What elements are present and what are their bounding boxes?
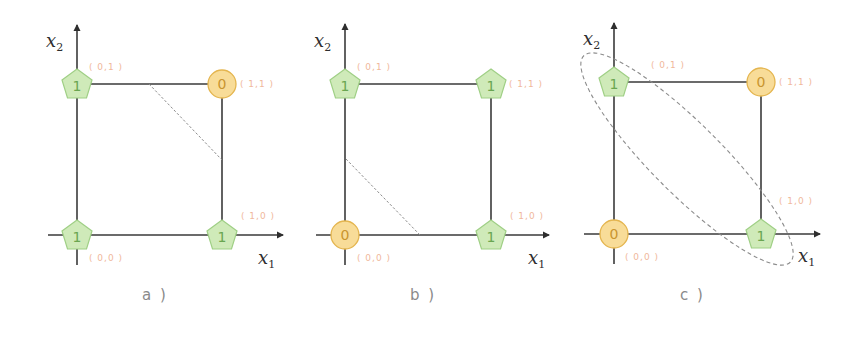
coord-label: ( 0,0 ) [357, 253, 391, 263]
caption-a: a ) [142, 286, 168, 304]
panel-b: 1 ( 0,1 ) 1 ( 1,1 ) 0 ( 0,0 ) 1 ( 1,0 ) … [314, 24, 549, 271]
point-1-1: 0 ( 1,1 ) [208, 70, 274, 98]
point-0-0: 0 ( 0,0 ) [331, 221, 391, 263]
point-0-0: 1 ( 0,0 ) [62, 220, 123, 263]
panel-a: 1 ( 0,1 ) 0 ( 1,1 ) 1 ( 0,0 ) 1 ( 1,0 ) … [46, 25, 283, 271]
point-value: 0 [341, 227, 350, 243]
caption-b: b ) [410, 286, 436, 304]
point-value: 1 [73, 78, 82, 94]
point-0-1: 1 ( 0,1 ) [599, 60, 685, 96]
point-value: 0 [610, 226, 619, 242]
coord-label: ( 1,1 ) [779, 77, 813, 87]
point-1-1: 0 ( 1,1 ) [747, 68, 813, 96]
coord-label: ( 1,1 ) [240, 79, 274, 89]
coord-label: ( 0,0 ) [89, 253, 123, 263]
point-value: 1 [341, 78, 350, 94]
x2-axis-label: x2 [314, 30, 331, 54]
x1-axis-label: x1 [798, 245, 815, 269]
point-value: 0 [757, 74, 766, 90]
x1-axis-label: x1 [528, 247, 545, 271]
point-0-1: 1 ( 0,1 ) [62, 62, 123, 98]
point-value: 1 [218, 229, 227, 245]
point-0-1: 1 ( 0,1 ) [330, 62, 391, 98]
panel-c: 1 ( 0,1 ) 0 ( 1,1 ) 0 ( 0,0 ) 1 ( 1,0 ) … [559, 23, 820, 287]
point-1-0: 1 ( 1,0 ) [207, 211, 275, 249]
coord-label: ( 0,1 ) [651, 60, 685, 70]
point-value: 0 [218, 76, 227, 92]
coord-label: ( 1,0 ) [510, 211, 544, 221]
coord-label: ( 1,1 ) [509, 79, 543, 89]
x1-axis-label: x1 [258, 247, 275, 271]
coord-label: ( 0,1 ) [357, 62, 391, 72]
point-value: 1 [610, 76, 619, 92]
point-value: 1 [487, 78, 496, 94]
coord-label: ( 1,0 ) [241, 211, 275, 221]
decision-boundary [346, 159, 420, 235]
point-1-1: 1 ( 1,1 ) [476, 69, 543, 98]
point-value: 1 [757, 228, 766, 244]
point-1-0: 1 ( 1,0 ) [476, 211, 544, 249]
point-value: 1 [487, 229, 496, 245]
x2-axis-label: x2 [583, 28, 600, 52]
point-0-0: 0 ( 0,0 ) [600, 220, 659, 262]
coord-label: ( 0,0 ) [625, 252, 659, 262]
caption-c: c ) [680, 286, 705, 304]
x2-axis-label: x2 [46, 30, 63, 54]
decision-ellipse [559, 31, 815, 287]
point-value: 1 [73, 229, 82, 245]
coord-label: ( 0,1 ) [89, 62, 123, 72]
decision-boundary [149, 84, 222, 160]
point-1-0: 1 ( 1,0 ) [746, 196, 813, 248]
coord-label: ( 1,0 ) [779, 196, 813, 206]
